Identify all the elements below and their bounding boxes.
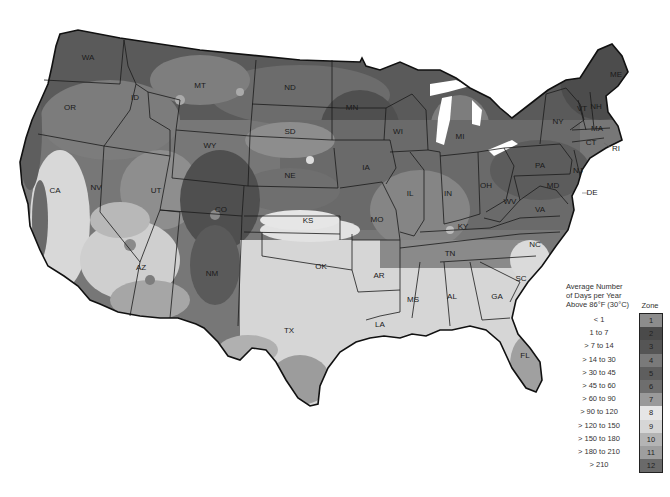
state-label-nv: NV [90, 183, 102, 192]
legend-swatch-zone-1: 1 [640, 314, 662, 327]
legend-swatch-zone-4: 4 [640, 354, 662, 367]
state-label-ky: KY [458, 222, 469, 231]
state-label-tx: TX [284, 326, 295, 335]
state-label-sc: SC [515, 274, 526, 283]
state-label-wa: WA [82, 53, 95, 62]
legend-range-zone-8: > 90 to 120 [566, 405, 632, 418]
state-label-mi: MI [456, 132, 465, 141]
state-label-ok: OK [315, 262, 327, 271]
legend-swatch-zone-10: 10 [640, 433, 662, 446]
state-label-nc: NC [529, 240, 541, 249]
state-label-nd: ND [284, 83, 296, 92]
state-label-me: ME [610, 70, 622, 79]
state-label-md: MD [547, 181, 560, 190]
legend-swatch-zone-11: 11 [640, 446, 662, 459]
state-label-co: CO [215, 205, 227, 214]
state-label-in: IN [444, 189, 452, 198]
state-label-oh: OH [480, 181, 492, 190]
state-label-nh: NH [590, 102, 602, 111]
state-label-ri: RI [612, 144, 620, 153]
legend-title-line-2: of Days per Year [566, 291, 646, 300]
legend-swatch-zone-7: 7 [640, 393, 662, 406]
state-label-va: VA [535, 205, 546, 214]
legend-swatch-zone-3: 3 [640, 340, 662, 353]
state-label-ma: MA [591, 124, 604, 133]
legend-zone-header: Zone [639, 301, 661, 310]
legend-title-line-1: Average Number [566, 282, 646, 291]
legend-range-zone-6: > 45 to 60 [566, 379, 632, 392]
legend-range-zone-2: 1 to 7 [566, 326, 632, 339]
legend-range-zone-12: > 210 [566, 458, 632, 471]
state-label-nm: NM [206, 269, 219, 278]
legend-range-zone-5: > 30 to 45 [566, 366, 632, 379]
legend-range-zone-1: < 1 [566, 313, 632, 326]
state-label-mo: MO [371, 215, 384, 224]
legend-range-zone-11: > 180 to 210 [566, 445, 632, 458]
state-label-nj: NJ [573, 166, 583, 175]
legend-range-zone-3: > 7 to 14 [566, 339, 632, 352]
state-label-il: IL [407, 189, 414, 198]
state-label-wi: WI [393, 127, 403, 136]
legend-title-line-3: Above 86°F (30°C) [566, 300, 646, 309]
state-label-ut: UT [151, 186, 162, 195]
legend-range-zone-10: > 150 to 180 [566, 432, 632, 445]
state-label-tn: TN [445, 249, 456, 258]
state-label-de: DE [586, 188, 597, 197]
legend-swatch-zone-5: 5 [640, 367, 662, 380]
state-label-ms: MS [407, 295, 419, 304]
state-label-ct: CT [586, 138, 597, 147]
state-label-vt: VT [577, 104, 587, 113]
state-label-fl: FL [520, 351, 530, 360]
state-label-wy: WY [204, 141, 218, 150]
legend-title: Average Number of Days per Year Above 86… [566, 282, 646, 309]
legend-range-zone-4: > 14 to 30 [566, 353, 632, 366]
state-label-ca: CA [49, 186, 61, 195]
state-label-al: AL [447, 292, 457, 301]
legend-swatch-zone-9: 9 [640, 420, 662, 433]
legend-color-bar: 123456789101112 [639, 313, 663, 473]
state-label-ia: IA [362, 163, 370, 172]
legend-swatch-zone-6: 6 [640, 380, 662, 393]
legend-range-zone-9: > 120 to 150 [566, 419, 632, 432]
state-label-mt: MT [194, 81, 206, 90]
state-label-mn: MN [346, 103, 359, 112]
state-label-az: AZ [136, 263, 146, 272]
state-label-ny: NY [552, 117, 564, 126]
legend-swatch-zone-12: 12 [640, 459, 662, 472]
state-label-ks: KS [303, 216, 314, 225]
legend-ranges: < 11 to 7> 7 to 14> 14 to 30> 30 to 45> … [566, 313, 632, 471]
state-label-ga: GA [491, 292, 503, 301]
legend-range-zone-7: > 60 to 90 [566, 392, 632, 405]
state-label-or: OR [64, 103, 76, 112]
state-label-ne: NE [284, 171, 295, 180]
state-label-pa: PA [535, 161, 546, 170]
legend-swatch-zone-8: 8 [640, 406, 662, 419]
state-label-ar: AR [373, 271, 384, 280]
state-label-sd: SD [284, 127, 295, 136]
state-label-id: ID [131, 93, 139, 102]
state-label-wv: WV [504, 197, 518, 206]
legend-swatch-zone-2: 2 [640, 327, 662, 340]
state-label-la: LA [375, 320, 385, 329]
